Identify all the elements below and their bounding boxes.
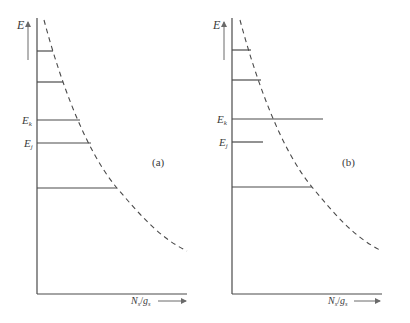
x-axis-label: Ns/gs (327, 295, 348, 307)
label-Ek: Ek (216, 113, 228, 127)
panel-tag-a: (a) (152, 156, 165, 169)
distribution-curve (240, 20, 382, 251)
label-Ej: Ej (218, 136, 228, 150)
energy-level-diagram: E Ek Ej (a) Ns/gs E (0, 0, 410, 323)
panel-tag-b: (b) (342, 156, 355, 169)
panel-b: E Ek Ej (b) Ns/gs (212, 18, 382, 307)
distribution-curve (44, 20, 187, 251)
label-Ej: Ej (23, 137, 33, 151)
y-axis-label-E: E (212, 18, 221, 32)
panel-a: E Ek Ej (a) Ns/gs (16, 18, 187, 307)
x-axis-label: Ns/gs (130, 295, 151, 307)
label-Ek: Ek (21, 114, 33, 128)
y-axis-label-E: E (16, 18, 25, 32)
